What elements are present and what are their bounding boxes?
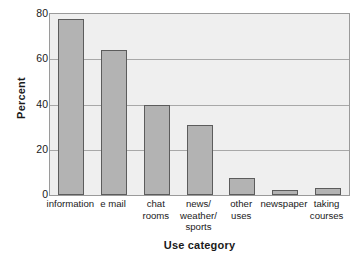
x-axis-tick-labels: informatione mailchatroomsnews/weather/s… [49, 198, 350, 242]
x-axis-title: Use category [49, 239, 350, 251]
bar [315, 188, 341, 195]
y-axis-tick-label: 60 [2, 53, 48, 63]
y-axis-tick-label: 40 [2, 99, 48, 109]
x-axis-tick-label-line: taking [297, 198, 356, 210]
x-axis-tick-label-line: uses [212, 210, 271, 222]
bar-series [50, 14, 349, 195]
bar [229, 178, 255, 195]
bar-chart-figure: Percent 020406080 informatione mailchatr… [0, 0, 364, 256]
x-axis-tick-label-line: sports [169, 221, 228, 233]
bar [101, 50, 127, 195]
plot-area [49, 13, 350, 196]
x-axis-tick-label-line: courses [297, 210, 356, 222]
bar [58, 19, 84, 195]
bar [187, 125, 213, 195]
x-axis-tick-label: takingcourses [297, 198, 356, 221]
bar [144, 105, 170, 196]
y-axis-tick-labels: 020406080 [0, 0, 48, 256]
y-axis-tick-label: 20 [2, 144, 48, 154]
bar [272, 190, 298, 195]
y-axis-tick-label: 80 [2, 8, 48, 18]
